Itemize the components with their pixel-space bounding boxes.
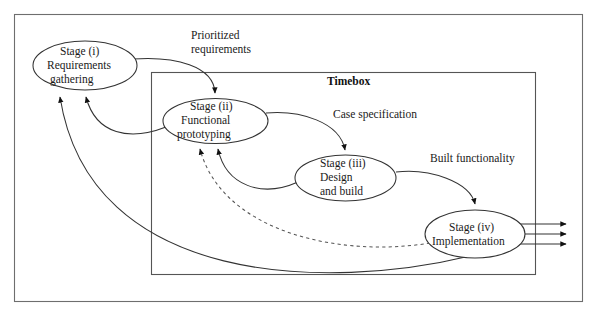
- edge-prioritized-requirements: [133, 58, 215, 93]
- node-stage-ii-line3: prototyping: [177, 128, 231, 141]
- label-prioritized-requirements-line1: Prioritized: [191, 29, 240, 41]
- node-stage-i-line2: Requirements: [47, 59, 111, 72]
- edge-built-functionality: [396, 171, 475, 204]
- label-case-specification: Case specification: [333, 108, 417, 121]
- edge-stage3-to-stage2-feedback: [218, 149, 298, 189]
- label-prioritized-requirements-line2: requirements: [191, 43, 252, 56]
- node-stage-ii[interactable]: Stage (ii) Functional prototyping: [163, 99, 268, 144]
- node-stage-i[interactable]: Stage (i) Requirements gathering: [33, 41, 137, 90]
- node-stage-iv-ellipse: [425, 210, 525, 258]
- node-stage-ii-line1: Stage (ii): [190, 100, 233, 113]
- node-stage-iii-line2: Design: [320, 171, 353, 184]
- node-stage-ii-line2: Functional: [181, 114, 230, 126]
- node-stage-iv-line2: Implementation: [432, 235, 505, 248]
- node-stage-i-line1: Stage (i): [60, 45, 99, 58]
- diagram-canvas: Stage (i) Requirements gathering Stage (…: [0, 0, 597, 316]
- node-stage-iv-line1: Stage (iv): [449, 221, 494, 234]
- edge-stage2-to-stage1-feedback: [86, 97, 166, 134]
- node-stage-iii-line3: and build: [320, 185, 363, 197]
- node-stage-iv[interactable]: Stage (iv) Implementation: [425, 210, 525, 258]
- node-stage-iii[interactable]: Stage (iii) Design and build: [295, 155, 396, 201]
- timebox-label: Timebox: [327, 75, 370, 87]
- node-stage-iii-line1: Stage (iii): [320, 157, 366, 170]
- label-built-functionality: Built functionality: [430, 152, 515, 165]
- node-stage-i-line3: gathering: [50, 73, 94, 86]
- diagram-figure: Stage (i) Requirements gathering Stage (…: [0, 0, 597, 316]
